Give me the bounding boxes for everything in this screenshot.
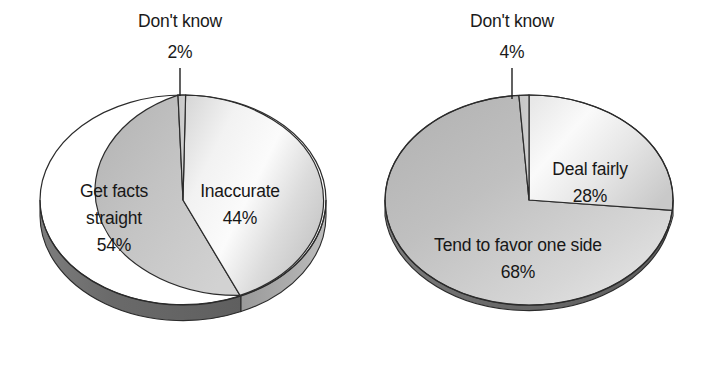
left-inaccurate-value: 44% [223, 208, 257, 228]
right-tend-favor-label: Tend to favor one side [434, 235, 602, 255]
left-get-facts-value: 54% [97, 235, 131, 255]
right-dont-know-title: Don't know [470, 11, 555, 31]
left-pie-chart: Don't know 2% Get facts straight 54% Ina… [40, 11, 326, 321]
left-get-facts-line2: straight [86, 208, 142, 228]
right-pie-chart: Don't know 4% Deal fairly 28% Tend to fa… [385, 11, 673, 311]
right-tend-favor-value: 68% [501, 262, 535, 282]
left-dont-know-title: Don't know [138, 11, 223, 31]
right-dont-know-value: 4% [500, 42, 525, 62]
left-get-facts-line1: Get facts [80, 181, 149, 201]
left-inaccurate-label: Inaccurate [200, 181, 280, 201]
right-deal-fairly-label: Deal fairly [552, 159, 628, 179]
pie-chart-figure: Don't know 2% Get facts straight 54% Ina… [0, 0, 708, 384]
left-dont-know-value: 2% [168, 42, 193, 62]
right-deal-fairly-value: 28% [573, 186, 607, 206]
charts-svg: Don't know 2% Get facts straight 54% Ina… [0, 0, 708, 384]
